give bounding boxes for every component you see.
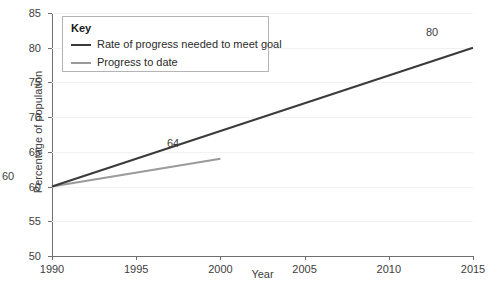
line-chart: Percentage of population 85 80 75 70 65 … <box>0 0 502 288</box>
progress-to-date-line <box>52 159 220 187</box>
legend-label-goal: Rate of progress needed to meet goal <box>97 38 282 50</box>
y-axis-label: Percentage of population <box>32 32 44 232</box>
legend-title: Key <box>71 22 91 34</box>
x-tick-2010 <box>389 256 390 260</box>
y-tick-label-70: 70 <box>29 111 41 123</box>
x-tick-1990 <box>52 256 53 260</box>
x-axis-label: Year <box>52 268 473 280</box>
legend-label-progress: Progress to date <box>97 56 178 68</box>
y-tick-label-75: 75 <box>29 76 41 88</box>
x-axis-line <box>52 256 474 257</box>
x-tick-2015 <box>473 256 474 260</box>
y-tick-label-50: 50 <box>29 250 41 262</box>
x-tick-2000 <box>220 256 221 260</box>
legend-swatch-progress <box>71 62 91 64</box>
data-label-start-60: 60 <box>2 170 14 182</box>
x-tick-2005 <box>305 256 306 260</box>
y-tick-label-65: 65 <box>29 146 41 158</box>
x-tick-1995 <box>136 256 137 260</box>
y-tick-label-60: 60 <box>29 181 41 193</box>
y-tick-label-80: 80 <box>29 42 41 54</box>
y-tick-label-55: 55 <box>29 215 41 227</box>
legend-swatch-goal <box>71 44 91 46</box>
y-tick-label-85: 85 <box>29 7 41 19</box>
data-label-progress-64: 64 <box>167 137 179 149</box>
legend: Key Rate of progress needed to meet goal… <box>62 16 269 72</box>
data-label-goal-80: 80 <box>426 26 438 38</box>
